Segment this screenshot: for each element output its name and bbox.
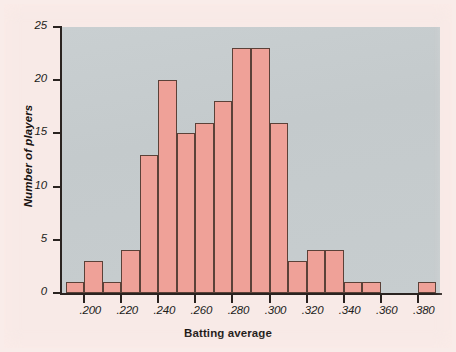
x-tick-mark xyxy=(306,295,308,303)
x-tick-mark xyxy=(157,295,159,303)
plot-area xyxy=(62,27,440,293)
histogram-bar xyxy=(325,250,344,293)
y-tick-mark xyxy=(53,186,61,188)
histogram-bar xyxy=(195,123,214,293)
y-tick-label: 25 xyxy=(13,19,47,31)
x-tick-label: .320 xyxy=(302,304,324,316)
histogram-bar xyxy=(418,282,437,293)
x-axis-title: Batting average xyxy=(0,327,456,339)
x-tick-label: .340 xyxy=(339,304,361,316)
histogram-bar xyxy=(84,261,103,293)
x-tick-mark xyxy=(120,295,122,303)
x-tick-mark xyxy=(417,295,419,303)
histogram-bar xyxy=(214,101,233,293)
histogram-bar xyxy=(232,48,251,293)
histogram-bar xyxy=(66,282,85,293)
x-tick-label: .300 xyxy=(265,304,287,316)
figure: 0510152025 .200.220.240.260.280.300.320.… xyxy=(0,0,456,352)
x-tick-mark xyxy=(343,295,345,303)
x-axis-line xyxy=(60,293,442,295)
x-tick-mark xyxy=(194,295,196,303)
x-tick-label: .220 xyxy=(116,304,138,316)
x-tick-mark xyxy=(380,295,382,303)
x-tick-label: .280 xyxy=(228,304,250,316)
histogram-bar xyxy=(270,123,289,293)
histogram-bar xyxy=(121,250,140,293)
histogram-bar xyxy=(362,282,381,293)
y-tick-mark xyxy=(53,132,61,134)
histogram-bar xyxy=(251,48,270,293)
histogram-bar xyxy=(140,155,159,293)
histogram-bar xyxy=(288,261,307,293)
x-tick-mark xyxy=(269,295,271,303)
x-tick-label: .200 xyxy=(79,304,101,316)
x-tick-label: .260 xyxy=(191,304,213,316)
y-axis-line xyxy=(60,26,62,295)
histogram-bar xyxy=(158,80,177,293)
y-tick-mark xyxy=(53,79,61,81)
y-axis-title: Number of players xyxy=(22,66,34,246)
y-tick-mark xyxy=(53,292,61,294)
x-tick-mark xyxy=(83,295,85,303)
x-tick-mark xyxy=(231,295,233,303)
x-tick-label: .240 xyxy=(154,304,176,316)
histogram-bar xyxy=(307,250,326,293)
histogram-bar xyxy=(177,133,196,293)
y-tick-mark xyxy=(53,239,61,241)
y-tick-mark xyxy=(53,26,61,28)
x-tick-label: .360 xyxy=(376,304,398,316)
histogram-bar xyxy=(103,282,122,293)
y-tick-label: 0 xyxy=(13,285,47,297)
histogram-bar xyxy=(344,282,363,293)
x-tick-label: .380 xyxy=(413,304,435,316)
